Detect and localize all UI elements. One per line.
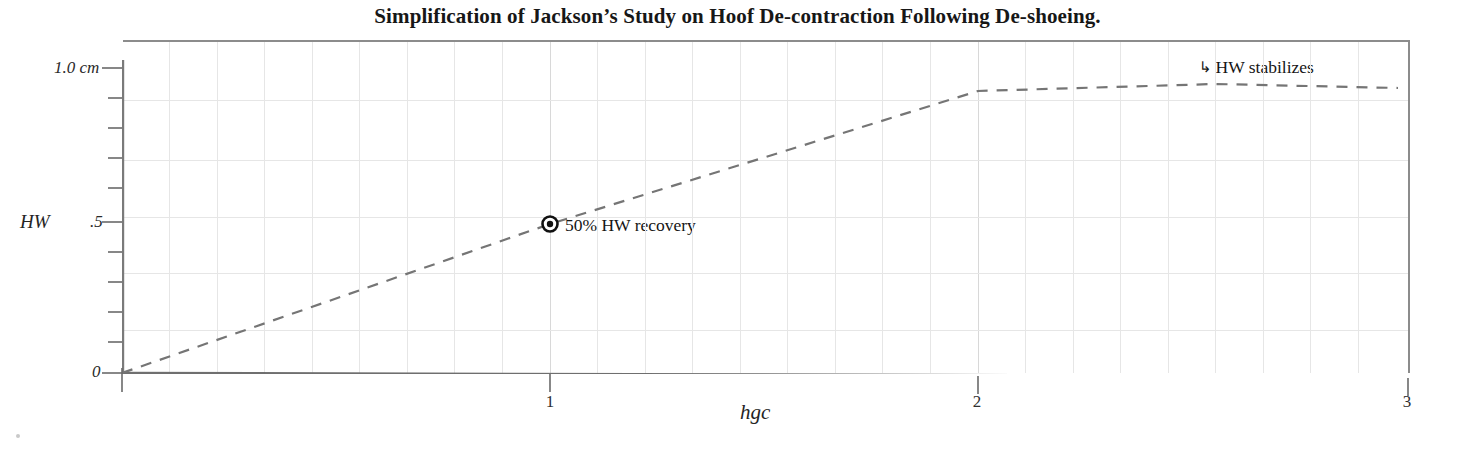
x-axis-title: hgc <box>740 400 770 425</box>
y-axis-title: HW <box>20 211 50 233</box>
y-axis-ticks <box>96 40 126 385</box>
chart-title: Simplification of Jackson’s Study on Hoo… <box>0 4 1475 29</box>
chart-figure: Simplification of Jackson’s Study on Hoo… <box>0 0 1475 456</box>
x-axis-ticks <box>110 366 1430 396</box>
plot-area <box>122 40 1410 374</box>
gridlines-vertical <box>170 41 1359 373</box>
y-axis-tick-label-top: 1.0 cm <box>54 58 99 78</box>
page-speck <box>16 434 20 438</box>
plot-svg <box>122 40 1410 374</box>
marker-fifty-percent-recovery <box>543 217 558 232</box>
